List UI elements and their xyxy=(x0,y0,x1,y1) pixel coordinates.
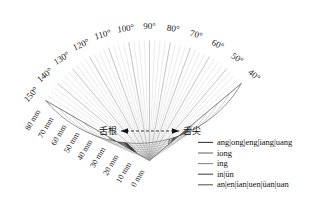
tongue-contour-line xyxy=(103,57,186,162)
tongue-contour-line xyxy=(107,68,178,166)
tongue-root-label: 舌根 xyxy=(99,125,117,136)
angular-tick-label: 110° xyxy=(93,27,112,41)
arrow-head-right-icon xyxy=(172,128,179,134)
tongue-contour-line xyxy=(98,55,183,166)
angular-tick-label: 60° xyxy=(210,37,226,52)
chart-annotations: 舌根 舌尖 xyxy=(99,125,201,136)
grid-spoke-minor xyxy=(150,59,214,160)
angular-tick-label: 90° xyxy=(143,21,156,31)
angular-tick-labels: 40°50°60°70°80°90°100°110°120°130°140°15… xyxy=(22,21,263,104)
polar-tongue-contour-chart: 40°50°60°70°80°90°100°110°120°130°140°15… xyxy=(0,0,336,209)
tongue-contour-line xyxy=(99,60,181,168)
tongue-contour-line xyxy=(109,72,173,178)
grid-spoke-minor xyxy=(61,79,149,160)
radial-tick-label: 0 mm xyxy=(129,167,146,188)
legend-item-label: iong xyxy=(217,148,233,158)
tongue-contour-line xyxy=(105,68,178,166)
grid-spoke-minor xyxy=(150,54,205,160)
tongue-contour-line xyxy=(99,59,183,165)
angular-tick-label: 140° xyxy=(35,65,55,84)
angular-tick-label: 80° xyxy=(166,22,180,34)
tongue-contour-line xyxy=(102,62,178,168)
tongue-contour-line xyxy=(100,59,180,167)
angular-tick-label: 70° xyxy=(189,28,204,41)
angular-tick-label: 50° xyxy=(229,51,245,66)
legend-item-label: an|en|ian|uen|üan|uan xyxy=(217,179,290,189)
tongue-contour-line xyxy=(106,64,179,166)
angular-tick-label: 120° xyxy=(71,36,91,52)
grid-spoke-minor xyxy=(150,45,181,161)
angular-tick-label: 150° xyxy=(22,84,41,104)
legend-item-label: ing xyxy=(217,158,229,168)
legend: ang|ong|eng|iang|uangiongingin|ünan|en|i… xyxy=(198,137,293,189)
angular-tick-label: 130° xyxy=(52,49,72,67)
grid-spoke-major xyxy=(108,48,149,161)
tongue-contour-line xyxy=(102,58,182,166)
legend-item-label: ang|ong|eng|iang|uang xyxy=(217,137,293,147)
figure-root: 40°50°60°70°80°90°100°110°120°130°140°15… xyxy=(0,0,336,209)
tongue-contour-line xyxy=(99,56,188,162)
tongue-contour-curves xyxy=(92,47,192,178)
tongue-tip-label: 舌尖 xyxy=(183,125,201,136)
angular-tick-label: 40° xyxy=(246,67,262,83)
grid-spoke-minor xyxy=(150,52,201,161)
tongue-contour-line xyxy=(109,66,180,163)
legend-item-label: in|ün xyxy=(217,169,235,179)
tongue-contour-line xyxy=(95,55,185,162)
angular-tick-label: 100° xyxy=(117,22,136,34)
tongue-contour-line xyxy=(97,60,180,160)
